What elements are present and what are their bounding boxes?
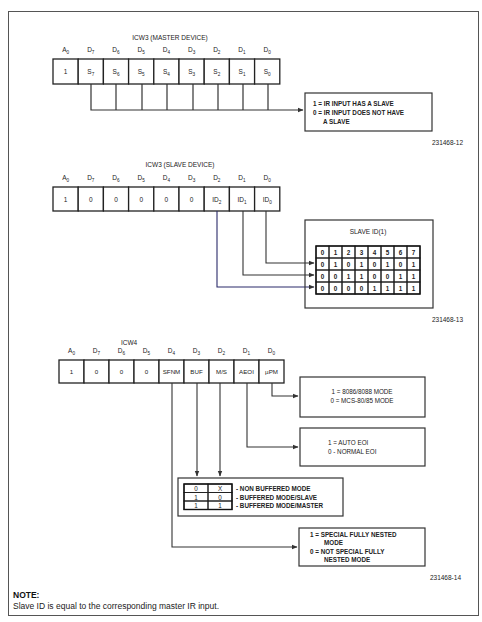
sfnm-legend-line-3: 0 = NOT SPECIAL FULLY: [310, 548, 385, 555]
icw4-bit-labels: A0D7D6D5D4D3D2D1D0: [68, 347, 276, 356]
bit-label: A0: [62, 174, 69, 183]
buf-table-value: 0: [218, 494, 222, 501]
id-table-value: 0: [347, 285, 351, 292]
icw4-title: ICW4: [121, 339, 138, 346]
id-table-value: 0: [360, 285, 364, 292]
id-table-value: 2: [347, 249, 351, 256]
id-table-value: 0: [321, 261, 325, 268]
buf-table-value: 1: [218, 502, 222, 509]
buf-table-value: 0: [194, 485, 198, 492]
bit-label: D5: [138, 46, 146, 55]
icw4-section: ICW4 A0D7D6D5D4D3D2D1D0 1000SFNMBUFM/SAE…: [59, 339, 461, 581]
aeoi-legend-line-2: 0 - NORMAL EOI: [328, 448, 377, 455]
slave-bit-labels: A0D7D6D5D4D3D2D1D0: [62, 174, 271, 183]
register-cell-value: AEOI: [239, 368, 254, 375]
id-table-value: 1: [347, 273, 351, 280]
aeoi-legend-box: [300, 428, 425, 466]
master-connector-lines: [91, 84, 303, 110]
register-cell-value: 0: [139, 196, 143, 203]
master-legend-line-3: A SLAVE: [323, 118, 350, 125]
id-table-value: 5: [386, 249, 390, 256]
icw4-register: 1000SFNMBUFM/SAEOIµPM: [59, 360, 284, 383]
bit-label: D6: [118, 347, 126, 356]
note-title: NOTE:: [13, 590, 39, 600]
id-table-value: 1: [373, 285, 377, 292]
bit-label: D0: [264, 174, 272, 183]
icw3-slave-section: ICW3 (SLAVE DEVICE) A0D7D6D5D4D3D2D1D0 1…: [53, 161, 463, 323]
register-cell-value: 0: [190, 196, 194, 203]
slave-connector-lines: [217, 211, 314, 287]
id-table-value: 0: [399, 261, 403, 268]
register-cell-value: 1: [70, 368, 74, 375]
slave-id-title: SLAVE ID(1): [350, 228, 387, 236]
register-cell-value: 0: [114, 196, 118, 203]
bit-label: D4: [163, 174, 171, 183]
buf-mode-description: - NON BUFFERED MODE: [236, 485, 311, 492]
sfnm-legend-line-2: MODE: [324, 539, 343, 546]
id-table-value: 0: [321, 249, 325, 256]
bit-label: D5: [138, 174, 146, 183]
register-cell-value: 1: [64, 68, 68, 75]
master-register: 1S7S6S5S4S3S2S1S0: [53, 59, 280, 84]
id-table-value: 7: [412, 249, 416, 256]
master-legend-line-2: 0 = IR INPUT DOES NOT HAVE: [313, 109, 404, 116]
register-cell-value: 0: [120, 368, 124, 375]
master-bit-labels: A0D7D6D5D4D3D2D1D0: [62, 46, 271, 55]
bit-label: D6: [112, 46, 120, 55]
register-cell-value: 1: [64, 196, 68, 203]
id-table-value: 0: [334, 285, 338, 292]
bit-label: D5: [143, 347, 151, 356]
bit-label: D2: [213, 174, 221, 183]
bit-label: D4: [163, 46, 171, 55]
bit-label: D7: [87, 174, 95, 183]
slave-id-table: 01234567010101010011001100001111: [316, 246, 420, 294]
buf-ms-table: 0X- NON BUFFERED MODE10- BUFFERED MODE/S…: [184, 484, 324, 510]
id-table-value: 1: [399, 285, 403, 292]
icw4-figure-id: 231468-14: [430, 574, 461, 581]
id-table-value: 0: [334, 273, 338, 280]
bit-label: D4: [168, 347, 176, 356]
sfnm-legend-line-4: NESTED MODE: [324, 556, 370, 563]
bit-label: D1: [238, 46, 246, 55]
id-table-value: 0: [373, 273, 377, 280]
note-text: Slave ID is equal to the corresponding m…: [13, 601, 219, 611]
bit-label: D6: [112, 174, 120, 183]
bit-label: D3: [193, 347, 201, 356]
sfnm-legend-line-1: 1 = SPECIAL FULLY NESTED: [310, 531, 397, 538]
aeoi-legend-line-1: 1 = AUTO EOI: [328, 439, 369, 446]
bit-label: D2: [218, 347, 226, 356]
master-legend-line-1: 1 = IR INPUT HAS A SLAVE: [313, 100, 394, 107]
register-cell-value: BUF: [190, 368, 203, 375]
register-cell-value: 0: [145, 368, 149, 375]
buf-table-value: 1: [194, 494, 198, 501]
buf-table-value: 1: [194, 502, 198, 509]
id-table-value: 4: [373, 249, 377, 256]
id-table-value: 0: [373, 261, 377, 268]
id-table-value: 1: [412, 273, 416, 280]
bit-label: D3: [188, 46, 196, 55]
id-table-value: 1: [334, 249, 338, 256]
bit-label: D0: [264, 46, 272, 55]
bit-label: D2: [213, 46, 221, 55]
register-cell-value: M/S: [216, 368, 227, 375]
bit-label: D7: [93, 347, 101, 356]
register-cell-value: SFNM: [163, 368, 181, 375]
register-cell-value: 0: [89, 196, 93, 203]
id-table-value: 6: [399, 249, 403, 256]
slave-figure-id: 231468-13: [432, 316, 463, 323]
icw4-connector-lines: [172, 383, 298, 547]
id-table-value: 1: [360, 261, 364, 268]
id-table-value: 1: [412, 285, 416, 292]
upm-legend-line-1: 1 = 8086/8088 MODE: [331, 388, 392, 395]
id-table-value: 1: [386, 261, 390, 268]
register-cell-value: 0: [165, 196, 169, 203]
id-table-value: 1: [386, 285, 390, 292]
id-table-value: 1: [399, 273, 403, 280]
buf-mode-description: - BUFFERED MODE/SLAVE: [236, 494, 317, 501]
bit-label: A0: [68, 347, 75, 356]
id-table-value: 0: [321, 285, 325, 292]
bit-label: A0: [62, 46, 69, 55]
id-table-value: 1: [360, 273, 364, 280]
bit-label: D1: [243, 347, 251, 356]
id-table-value: 3: [360, 249, 364, 256]
